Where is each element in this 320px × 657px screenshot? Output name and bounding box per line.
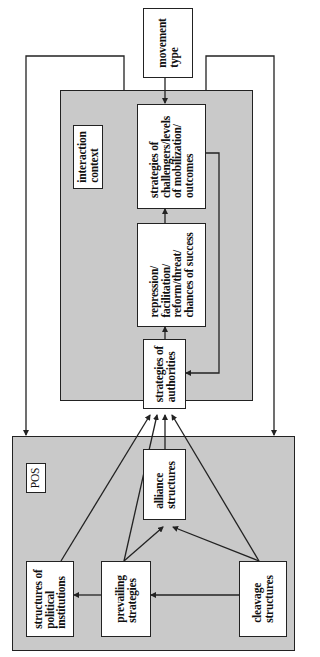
interaction-outcomes-label: repression/ facilitation/ reform/threat/…	[149, 232, 195, 317]
cleavage-structures-box: cleavage structures	[239, 561, 287, 637]
prevailing-strategies-box: prevailing strategies	[101, 561, 151, 637]
interaction-context-label: interaction context	[77, 131, 100, 182]
movement-type-box: movement type	[143, 8, 193, 78]
political-institutions-label: structures of political institutions	[33, 569, 68, 628]
political-institutions-box: structures of political institutions	[26, 561, 74, 637]
interaction-outcomes-box: repression/ facilitation/ reform/threat/…	[137, 223, 206, 327]
cleavage-structures-label: cleavage structures	[252, 575, 275, 623]
pos-label-box: POS	[26, 463, 46, 493]
challengers-strategies-label: strategies of challengers/levels of mobi…	[149, 116, 195, 198]
challengers-strategies-box: strategies of challengers/levels of mobi…	[137, 104, 206, 209]
alliance-structures-box: alliance structures	[143, 449, 186, 520]
interaction-context-label-box: interaction context	[73, 125, 103, 189]
pos-label: POS	[30, 468, 42, 489]
movement-type-label: movement type	[157, 18, 180, 68]
alliance-structures-label: alliance structures	[153, 461, 176, 509]
prevailing-strategies-label: prevailing strategies	[115, 575, 138, 623]
authorities-strategies-label: strategies of authorities	[153, 346, 176, 402]
authorities-strategies-box: strategies of authorities	[143, 339, 186, 409]
